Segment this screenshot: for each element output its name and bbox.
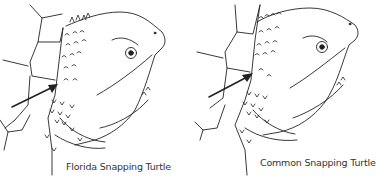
- common-turtle-head-illustration: [185, 0, 371, 180]
- caption-florida: Florida Snapping Turtle: [66, 161, 171, 172]
- arrow-icon: [12, 86, 55, 107]
- caption-common: Common Snapping Turtle: [260, 157, 376, 168]
- florida-turtle-head-illustration: [0, 0, 185, 180]
- florida-snapping-turtle-panel: Florida Snapping Turtle: [0, 0, 185, 180]
- common-snapping-turtle-panel: Common Snapping Turtle: [185, 0, 370, 180]
